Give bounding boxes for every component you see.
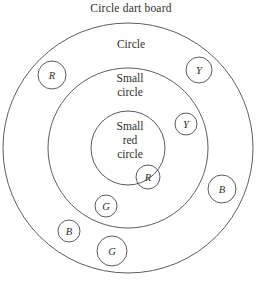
dart-marker-label: B (66, 226, 73, 237)
dart-marker-label: G (102, 201, 110, 212)
dart-marker: R (38, 61, 66, 89)
dart-marker: Y (186, 57, 212, 83)
dart-marker: Y (175, 113, 197, 135)
dart-marker: R (136, 165, 160, 189)
ring-label-inner: Small red circle (91, 119, 169, 161)
page-title: Circle dart board (0, 2, 262, 14)
dart-marker: G (97, 236, 127, 266)
ring-label-middle: Small circle (83, 71, 177, 99)
circle-dart-board-figure: Circle dart board R Y Y R (0, 0, 262, 283)
dart-marker: B (208, 175, 236, 203)
dart-marker-label: Y (183, 119, 190, 130)
dart-marker-label: R (144, 172, 152, 183)
dart-marker-label: R (48, 70, 56, 81)
ring-label-outer: Circle (81, 37, 181, 51)
dart-marker: G (95, 195, 117, 217)
dart-marker-label: B (219, 184, 226, 195)
dart-marker-label: G (108, 246, 116, 257)
dart-marker-label: Y (196, 65, 203, 76)
dart-marker: B (58, 220, 80, 242)
